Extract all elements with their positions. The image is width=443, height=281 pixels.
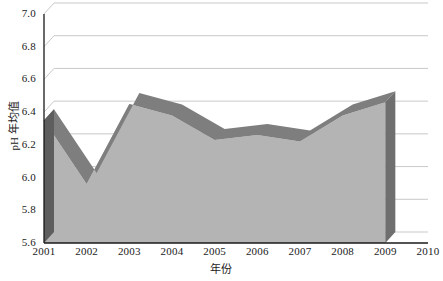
y-axis-tick-label: 7.0: [8, 8, 36, 19]
area-left-end-cap: [44, 109, 54, 243]
y-axis-title: pH 年均值: [5, 91, 21, 161]
gridline-y-riser: [44, 68, 54, 79]
x-axis-tick-label: 2010: [408, 246, 443, 257]
x-axis-tick-label: 2004: [152, 246, 192, 257]
x-axis-tick-label: 2008: [323, 246, 363, 257]
area-right-end-cap: [385, 91, 395, 243]
x-axis-title: 年份: [186, 260, 256, 276]
x-axis-tick-label: 2001: [24, 246, 64, 257]
gridline-y-riser: [44, 101, 54, 112]
chart-container: pH 年均值 年份 7.06.86.66.46.26.05.85.6200120…: [0, 0, 443, 281]
y-axis-tick-label: 6.2: [8, 139, 36, 150]
area-chart-plot: [0, 0, 443, 281]
x-axis-tick-label: 2005: [195, 246, 235, 257]
x-axis-tick-label: 2006: [237, 246, 277, 257]
x-axis-tick-label: 2009: [365, 246, 405, 257]
x-axis-tick-label: 2002: [67, 246, 107, 257]
gridline-y-riser: [44, 36, 54, 47]
gridline-y-riser: [44, 3, 54, 14]
x-axis-tick-label: 2003: [109, 246, 149, 257]
y-axis-tick-label: 6.4: [8, 106, 36, 117]
y-axis-tick-label: 6.8: [8, 41, 36, 52]
x-axis-tick-label: 2007: [280, 246, 320, 257]
y-axis-tick-label: 5.8: [8, 204, 36, 215]
y-axis-tick-label: 6.0: [8, 172, 36, 183]
y-axis-tick-label: 6.6: [8, 73, 36, 84]
